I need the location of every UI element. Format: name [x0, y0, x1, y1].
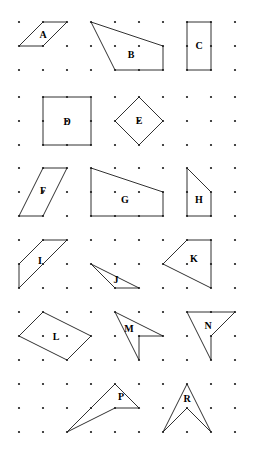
grid-dot	[186, 144, 188, 146]
grid-dot	[162, 383, 164, 385]
grid-dot	[234, 215, 236, 217]
grid-dot	[114, 167, 116, 169]
polygon-g	[91, 168, 163, 216]
grid-dot	[186, 96, 188, 98]
grid-dot	[138, 167, 140, 169]
grid-dot	[234, 191, 236, 193]
grid-dot	[66, 311, 68, 313]
grid-dot	[66, 45, 68, 47]
grid-dot	[42, 69, 44, 71]
grid-dot	[138, 263, 140, 265]
grid-dot	[18, 120, 20, 122]
grid-dot	[66, 383, 68, 385]
grid-dot	[18, 407, 20, 409]
grid-dot	[234, 239, 236, 241]
grid-dot	[90, 431, 92, 433]
grid-dot	[42, 383, 44, 385]
grid-dot	[42, 359, 44, 361]
grid-dot	[186, 263, 188, 265]
grid-dot	[234, 120, 236, 122]
grid-dot	[234, 45, 236, 47]
grid-dot	[210, 167, 212, 169]
grid-dot	[234, 21, 236, 23]
grid-dot	[114, 359, 116, 361]
grid-dot	[234, 287, 236, 289]
grid-dot	[18, 21, 20, 23]
grid-dot	[66, 263, 68, 265]
grid-dot	[114, 335, 116, 337]
grid-dot	[162, 287, 164, 289]
grid-dot	[114, 21, 116, 23]
polygon-n	[187, 312, 235, 360]
polygon-label-h: H	[195, 194, 203, 205]
grid-dot	[234, 69, 236, 71]
polygon-label-k: K	[190, 253, 198, 264]
grid-dot	[138, 311, 140, 313]
polygon-h	[187, 168, 211, 216]
grid-dot	[90, 311, 92, 313]
grid-dot	[18, 69, 20, 71]
grid-dot	[18, 167, 20, 169]
polygon-label-p: P	[118, 391, 124, 402]
grid-dot	[162, 21, 164, 23]
grid-dot	[210, 96, 212, 98]
grid-dot	[162, 96, 164, 98]
grid-dot	[234, 144, 236, 146]
polygon-label-i: I	[38, 255, 42, 266]
polygon-label-g: G	[121, 194, 129, 205]
grid-dot	[186, 431, 188, 433]
grid-dot	[66, 215, 68, 217]
grid-dot	[18, 383, 20, 385]
grid-dot	[42, 407, 44, 409]
grid-dot	[114, 431, 116, 433]
grid-dot	[66, 287, 68, 289]
polygon-label-b: B	[128, 49, 135, 60]
grid-dot	[138, 191, 140, 193]
polygon-label-d: D	[63, 116, 70, 127]
grid-dot	[186, 120, 188, 122]
polygon-label-l: L	[53, 331, 60, 342]
grid-dot	[18, 144, 20, 146]
grid-dot	[138, 21, 140, 23]
grid-dot	[42, 287, 44, 289]
grid-dot	[234, 359, 236, 361]
worksheet-canvas: ABCDEFGHIJKLMNPR	[0, 0, 253, 460]
grid-dot	[234, 407, 236, 409]
grid-dot	[210, 120, 212, 122]
grid-dot	[138, 45, 140, 47]
grid-dot	[66, 335, 68, 337]
polygon-shapes-layer	[19, 22, 235, 432]
grid-dot	[114, 263, 116, 265]
polygon-label-c: C	[195, 40, 202, 51]
grid-dot	[90, 69, 92, 71]
grid-dot	[114, 191, 116, 193]
grid-dot	[234, 431, 236, 433]
dot-grid-figure: ABCDEFGHIJKLMNPR	[0, 0, 253, 460]
grid-dot	[162, 167, 164, 169]
grid-dot	[234, 335, 236, 337]
grid-dot	[138, 431, 140, 433]
polygon-label-a: A	[39, 29, 47, 40]
grid-dot	[114, 96, 116, 98]
grid-dot	[18, 96, 20, 98]
grid-dot	[66, 69, 68, 71]
polygon-b	[91, 22, 163, 70]
polygon-r	[163, 384, 211, 432]
polygon-i	[19, 240, 67, 288]
grid-dot	[42, 431, 44, 433]
grid-dot	[162, 359, 164, 361]
grid-dot	[138, 383, 140, 385]
polygon-label-e: E	[136, 115, 143, 126]
grid-dot	[162, 407, 164, 409]
polygon-label-j: J	[114, 274, 119, 285]
grid-dot	[90, 359, 92, 361]
polygon-p	[67, 384, 139, 432]
grid-dot	[186, 287, 188, 289]
polygon-label-r: R	[183, 393, 191, 404]
polygon-m	[115, 312, 163, 360]
grid-dot	[234, 167, 236, 169]
grid-dot	[18, 191, 20, 193]
grid-dot	[114, 45, 116, 47]
grid-dot	[66, 407, 68, 409]
grid-dot	[18, 311, 20, 313]
